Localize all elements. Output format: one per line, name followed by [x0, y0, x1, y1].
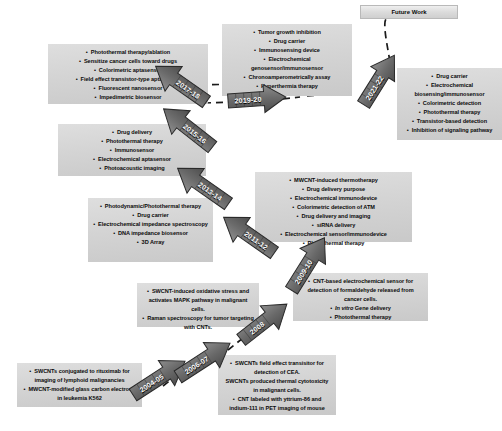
milestone-item: Colorimetric detection of ATM: [260, 203, 407, 212]
milestone-box-2011: MWCNT-induced thermotherapy Drug deliver…: [255, 172, 412, 242]
milestone-item: Drug delivery purpose: [260, 185, 407, 194]
milestone-box-2013: Photodynamic/Photothermal therapy Drug c…: [88, 198, 213, 262]
milestone-item: Immunosensor: [63, 146, 201, 155]
milestone-item: MWCNT-modified glass carbon electrode in…: [22, 385, 137, 403]
milestone-item: Photodynamic/Photothermal therapy: [93, 202, 208, 211]
milestone-item: Electrochemical biosensing/immunosensor: [402, 81, 497, 99]
timeline-diagram: Future Work Photothermal therapy/ablatio…: [0, 0, 502, 431]
arrow-2019-20: 2019-20: [227, 83, 287, 115]
italic-term: In vitro: [335, 305, 353, 311]
milestone-item: SWCNTs conjugated to rituximab for imagi…: [22, 367, 137, 385]
future-work-label: Future Work: [391, 9, 426, 15]
milestone-item: Drug carrier: [93, 211, 208, 220]
milestone-item: Drug carrier: [227, 37, 347, 46]
milestone-item: SWCNTs produced thermal cytotoxicity in …: [223, 377, 331, 395]
milestone-item: SWCNTs field effect transisitor for dete…: [223, 359, 331, 377]
milestone-item: CNT labeled with yttrium-86 and indium-1…: [223, 395, 331, 413]
milestone-item: Tumor growth inhibition: [227, 28, 347, 37]
milestone-box-2006: SWCNTs field effect transisitor for dete…: [218, 355, 336, 415]
milestone-item: Electrochemical immunodevice: [260, 194, 407, 203]
milestone-item: Electrochemical impedance spectroscopy: [93, 220, 208, 229]
milestone-item: DNA impedance biosensor: [93, 229, 208, 238]
milestone-item: Immunosensing device: [227, 46, 347, 55]
milestone-item: Photothermal therapy/ablation: [53, 48, 203, 57]
milestone-item: In vitro Gene delivery: [298, 304, 423, 313]
milestone-item: Electrochemical sensor/immunodevice: [260, 230, 407, 239]
milestone-item: Electrochemical genosensor/immunosensor: [227, 55, 347, 73]
milestone-item: Colorimetric detection: [402, 99, 497, 108]
milestone-item: SWCNT-induced oxidative stress and activ…: [142, 287, 254, 314]
milestone-box-2004: SWCNTs conjugated to rituximab for imagi…: [17, 363, 142, 407]
milestone-item: Transistor-based detection: [402, 117, 497, 126]
milestone-item: Inhibition of signaling pathway: [402, 126, 497, 135]
milestone-item: MWCNT-induced thermotherapy: [260, 176, 407, 185]
milestone-item: Drug delivery and imaging: [260, 212, 407, 221]
future-work-box: Future Work: [360, 5, 458, 19]
milestone-item: 3D Array: [93, 238, 208, 247]
milestone-item: CNT-based electrochemical sensor for det…: [298, 277, 423, 304]
milestone-item: Drug carrier: [402, 72, 497, 81]
milestone-item: Photothermal therapy: [298, 313, 423, 322]
milestone-item: siRNA delivery: [260, 221, 407, 230]
milestone-item: Chronoamperometrically assay: [227, 73, 347, 82]
milestone-box-2021: Drug carrier Electrochemical biosensing/…: [397, 68, 502, 140]
milestone-item: Photothermal therapy: [402, 108, 497, 117]
arrow-year-label: 2019-20: [227, 84, 269, 115]
